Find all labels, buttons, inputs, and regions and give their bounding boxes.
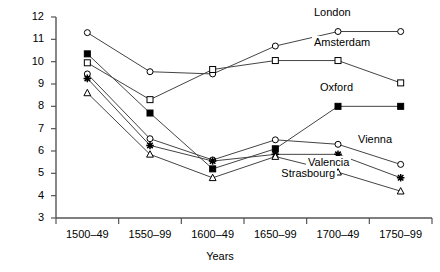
x-tick-label: 1550–99 (119, 228, 182, 240)
series-label-vienna: Vienna (356, 133, 394, 145)
x-tick-label: 1650–99 (244, 228, 307, 240)
y-tick-label: 9 (22, 77, 44, 89)
y-tick-label: 12 (22, 10, 44, 22)
x-axis-title: Years (0, 250, 440, 262)
y-tick-label: 10 (22, 55, 44, 67)
y-tick-label: 5 (22, 166, 44, 178)
y-tick-label: 11 (22, 32, 44, 44)
line-chart: 3456789101112 1500–491550–991600–491650–… (0, 0, 440, 272)
y-tick-label: 6 (22, 144, 44, 156)
series-lines (87, 32, 400, 192)
series-label-oxford: Oxford (318, 81, 355, 93)
y-tick-label: 7 (22, 122, 44, 134)
y-tick-label: 3 (22, 211, 44, 223)
y-tick-marks (51, 17, 56, 218)
x-tick-label: 1500–49 (56, 228, 119, 240)
x-tick-marks (56, 218, 432, 224)
series-label-amsterdam: Amsterdam (312, 36, 372, 48)
series-label-london: London (312, 6, 353, 18)
axes (51, 17, 432, 224)
y-tick-label: 4 (22, 189, 44, 201)
series-label-strasbourg: Strasbourg (279, 167, 337, 179)
x-tick-label: 1700–49 (307, 228, 370, 240)
series-markers (84, 29, 405, 194)
y-tick-label: 8 (22, 99, 44, 111)
x-tick-label: 1600–49 (181, 228, 244, 240)
x-tick-label: 1750–99 (369, 228, 432, 240)
